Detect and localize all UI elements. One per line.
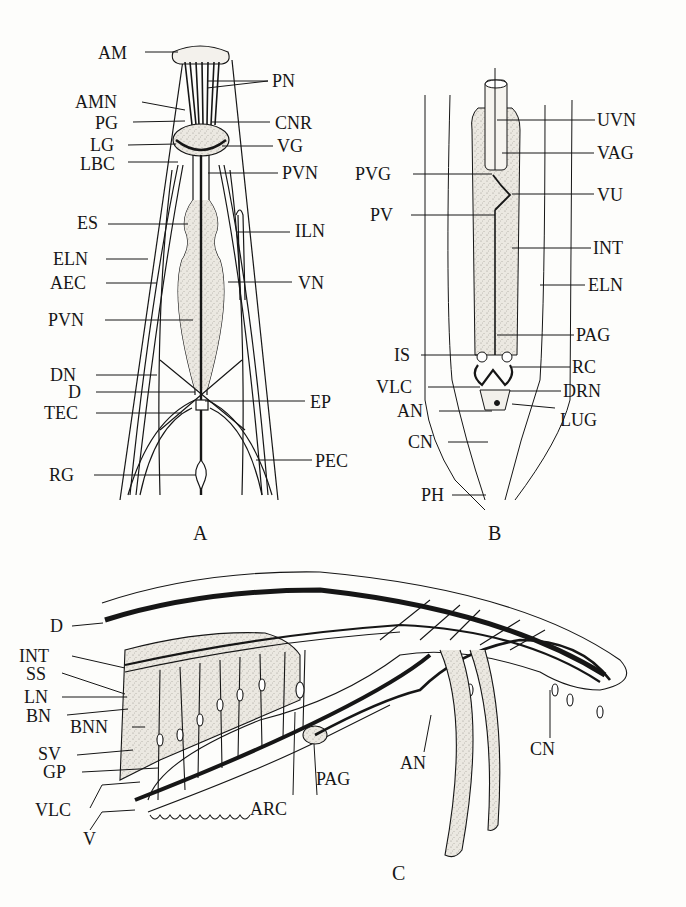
label-b-pv: PV bbox=[370, 206, 393, 224]
label-a-tec: TEC bbox=[44, 404, 78, 422]
label-c-pag: PAG bbox=[316, 770, 350, 788]
label-c-d: D bbox=[50, 617, 63, 635]
label-a-cnr: CNR bbox=[275, 114, 312, 132]
label-b-vu: VU bbox=[597, 186, 623, 204]
label-c-gp: GP bbox=[43, 763, 66, 781]
label-b-is: IS bbox=[394, 346, 410, 364]
panel-b-drawing bbox=[425, 68, 572, 510]
label-a-d: D bbox=[68, 383, 81, 401]
label-b-ph: PH bbox=[421, 486, 444, 504]
anatomy-figure: AM PN AMN PG CNR LG VG LBC PVN ES ILN EL… bbox=[0, 0, 686, 907]
label-a-rg: RG bbox=[49, 466, 74, 484]
label-c-sv: SV bbox=[38, 745, 61, 763]
label-a-pg: PG bbox=[95, 114, 118, 132]
label-b-pvg: PVG bbox=[355, 165, 391, 183]
label-c-an: AN bbox=[400, 754, 426, 772]
label-a-am: AM bbox=[98, 44, 127, 62]
label-b-rc: RC bbox=[572, 358, 596, 376]
label-c-ss: SS bbox=[26, 665, 46, 683]
label-a-vn: VN bbox=[298, 274, 324, 292]
label-a-eln: ELN bbox=[53, 250, 88, 268]
label-c-arc: ARC bbox=[250, 800, 287, 818]
label-a-lg: LG bbox=[90, 136, 114, 154]
label-a-aec: AEC bbox=[50, 274, 86, 292]
label-c-ln: LN bbox=[24, 688, 48, 706]
label-c-bn: BN bbox=[26, 707, 51, 725]
label-a-pec: PEC bbox=[315, 452, 348, 470]
panel-letter-c: C bbox=[392, 862, 405, 885]
label-a-pvn-left: PVN bbox=[48, 311, 84, 329]
label-b-an: AN bbox=[397, 402, 423, 420]
label-c-bnn: BNN bbox=[70, 718, 108, 736]
label-b-vag: VAG bbox=[597, 144, 634, 162]
label-c-vlc: VLC bbox=[35, 801, 71, 819]
label-b-pag: PAG bbox=[576, 326, 610, 344]
label-b-cn: CN bbox=[408, 433, 433, 451]
label-b-int: INT bbox=[593, 239, 623, 257]
panel-letter-b: B bbox=[488, 522, 501, 545]
label-a-iln: ILN bbox=[295, 222, 325, 240]
label-b-eln: ELN bbox=[588, 276, 623, 294]
label-a-vg: VG bbox=[277, 137, 303, 155]
label-a-pvn-right: PVN bbox=[282, 164, 318, 182]
label-c-cn: CN bbox=[530, 740, 555, 758]
panel-a-drawing bbox=[120, 46, 278, 500]
label-b-vlc: VLC bbox=[376, 378, 412, 396]
panel-letter-a: A bbox=[193, 522, 207, 545]
label-b-lug: LUG bbox=[560, 411, 597, 429]
label-b-drn: DRN bbox=[563, 382, 601, 400]
label-a-pn: PN bbox=[272, 72, 295, 90]
label-a-amn: AMN bbox=[75, 93, 117, 111]
label-a-ep: EP bbox=[310, 393, 331, 411]
label-a-es: ES bbox=[77, 214, 98, 232]
label-c-v: V bbox=[83, 830, 96, 848]
panel-c-drawing bbox=[102, 572, 627, 857]
label-c-int: INT bbox=[19, 647, 49, 665]
label-b-uvn: UVN bbox=[597, 111, 636, 129]
label-a-lbc: LBC bbox=[80, 155, 115, 173]
